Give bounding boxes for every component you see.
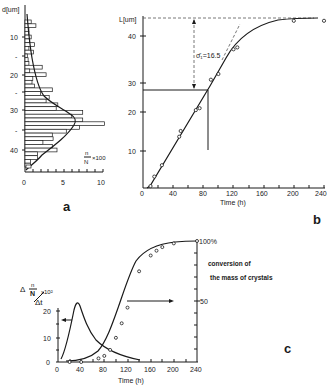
xtick-label: 120 (226, 190, 238, 197)
data-point (155, 249, 158, 252)
data-point (149, 185, 152, 188)
data-point (153, 175, 156, 178)
panel-b-sigma-annotation: σ̄₁=16.5 (196, 52, 221, 59)
panel-c-xlabel: Time (h) (118, 377, 144, 385)
panel-a-ylabel: d[um] (2, 6, 20, 14)
data-point (126, 306, 129, 309)
right-axis-top-label: 100% (199, 238, 217, 245)
xtick-label: 80 (199, 190, 207, 197)
ytick-label: - (15, 89, 18, 96)
panel-b-ylabel: L[um] (119, 16, 137, 24)
data-point (97, 357, 100, 360)
ytick-label: 20 (128, 109, 136, 116)
panel-c-nucleation-curve (61, 303, 140, 360)
ytick-label: 10 (10, 34, 18, 41)
xtick-label: 240 (190, 366, 202, 373)
panel-c-left-ylabel: Δ n N x10² Δt (20, 282, 53, 307)
svg-text:n: n (31, 282, 34, 288)
histogram-bar (25, 107, 56, 111)
panel-a-label: a (63, 199, 71, 214)
data-point (232, 48, 235, 51)
svg-text:n: n (85, 150, 88, 156)
panel-c-label: c (284, 341, 291, 356)
histogram-bar (25, 111, 83, 115)
ytick-label: 10 (128, 148, 136, 155)
histogram-bar (25, 148, 57, 152)
histogram-bar (25, 50, 34, 54)
panel-a-xlabel: n N ×100 (84, 150, 106, 165)
xtick-label: 120 (120, 366, 132, 373)
histogram-bar (25, 62, 29, 66)
histogram-bar (25, 77, 33, 81)
data-point (114, 336, 117, 339)
figure-canvas: d[um] 10 - 20 - 30 - 40 (0, 0, 332, 391)
panel-b-label: b (313, 212, 321, 227)
histogram-bar (25, 69, 30, 73)
xtick-label: 0 (55, 366, 59, 373)
ytick-label: 20 (43, 308, 51, 315)
data-point (138, 270, 141, 273)
xtick-label: 0 (140, 190, 144, 197)
data-point (178, 135, 181, 138)
histogram-bar (25, 54, 27, 58)
histogram-bar (25, 58, 28, 62)
panel-a-histogram-bars (25, 20, 105, 167)
data-point (194, 109, 197, 112)
ytick-label: 0 (46, 359, 50, 366)
svg-text:N: N (30, 290, 35, 297)
xtick-label: 40 (169, 190, 177, 197)
panel-b-xticks: 0 40 80 120 160 200 240 (140, 185, 327, 197)
data-point (217, 72, 220, 75)
arrow-up-icon (192, 19, 196, 24)
ytick-label: 40 (10, 147, 18, 154)
data-point (149, 254, 152, 257)
ytick-label: - (15, 127, 18, 134)
panel-a-yticks: 10 - 20 - 30 - 40 (10, 34, 25, 154)
data-point (161, 246, 164, 249)
histogram-bar (25, 152, 38, 156)
panel-c: Δ n N x10² Δt 0 10 20 (20, 238, 291, 385)
panel-c-xticks: 0 40 80 120 160 200 240 (55, 359, 202, 373)
right-axis-mid-label: 50 (200, 298, 208, 305)
xtick-label: 240 (315, 190, 327, 197)
ytick-label: 40 (128, 33, 136, 40)
data-point (196, 240, 199, 243)
data-point (103, 354, 106, 357)
panel-b: L[um] 10 20 30 40 (119, 16, 327, 227)
ytick-label: 30 (10, 107, 18, 114)
data-point (292, 19, 295, 22)
svg-text:Δt: Δt (35, 298, 43, 307)
histogram-bar (25, 99, 46, 103)
histogram-bar (25, 159, 31, 163)
svg-text:×100: ×100 (92, 155, 106, 161)
xtick-label: 40 (76, 366, 84, 373)
arrow-left-icon (61, 318, 66, 322)
data-point (68, 361, 71, 364)
xtick-label: 160 (256, 190, 268, 197)
panel-b-data-points (149, 19, 326, 188)
xtick-label: 0 (22, 179, 26, 186)
svg-text:x10²: x10² (41, 289, 53, 295)
data-point (198, 107, 201, 110)
panel-c-right-title-2: the mass of crystals (210, 274, 273, 282)
histogram-bar (25, 24, 36, 28)
data-point (160, 164, 163, 167)
svg-text:Δ: Δ (20, 285, 26, 294)
histogram-bar (25, 46, 29, 50)
panel-b-growth-curve (147, 18, 318, 188)
histogram-bar (25, 133, 52, 137)
xtick-label: 5 (61, 179, 65, 186)
xtick-label: 10 (97, 179, 105, 186)
data-point (120, 322, 123, 325)
histogram-bar (25, 144, 52, 148)
xtick-label: 200 (167, 366, 179, 373)
data-point (172, 242, 175, 245)
arrow-down-icon (192, 84, 196, 89)
histogram-bar (25, 129, 66, 133)
xtick-label: 80 (99, 366, 107, 373)
panel-a: d[um] 10 - 20 - 30 - 40 (2, 5, 106, 214)
data-point (209, 78, 212, 81)
panel-b-xlabel: Time (h) (220, 199, 246, 207)
panel-c-left-yticks: 0 10 20 (43, 308, 60, 366)
histogram-bar (25, 118, 83, 122)
